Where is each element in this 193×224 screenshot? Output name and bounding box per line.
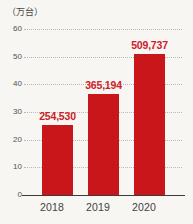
y-tick-label: 20: [2, 136, 22, 144]
x-axis-line: [22, 195, 185, 196]
gridline: [24, 29, 182, 30]
bar-chart: （万台） 60 50 40 30 20 10 0 254,530 365,194…: [0, 0, 193, 224]
y-axis-unit-label: （万台）: [7, 5, 43, 18]
y-tick-label: 10: [2, 163, 22, 171]
data-label-2018: 254,530: [28, 110, 88, 122]
bar-2019: [88, 94, 119, 195]
data-label-2020: 509,737: [120, 39, 180, 51]
y-tick-label: 60: [2, 25, 22, 33]
bar-2018: [42, 125, 73, 195]
y-tick-label: 30: [2, 108, 22, 116]
y-tick-label: 50: [2, 53, 22, 61]
x-tick-label-2020: 2020: [114, 201, 174, 213]
y-tick-label: 0: [2, 191, 22, 199]
y-axis-tick-labels: 60 50 40 30 20 10 0: [0, 29, 22, 195]
y-tick-label: 40: [2, 80, 22, 88]
bar-2020: [134, 54, 165, 195]
data-label-2019: 365,194: [74, 79, 134, 91]
